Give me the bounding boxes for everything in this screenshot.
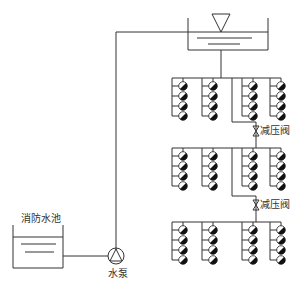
sprinkler-head-icon [249, 102, 258, 111]
sprinkler-head-icon [277, 236, 286, 245]
lower-zone [172, 222, 285, 264]
sprinkler-zones [172, 78, 285, 264]
sprinkler-branch [242, 222, 257, 264]
sprinkler-head-icon [179, 162, 188, 171]
pressure-reducing-valve-lower: 减压阀 [253, 198, 290, 210]
pump-label: 水泵 [108, 268, 128, 279]
sprinkler-head-icon [209, 82, 218, 91]
pump-circle-icon [108, 248, 124, 264]
sprinkler-branch [270, 78, 285, 120]
sprinkler-head-icon [249, 172, 258, 181]
sprinkler-head-icon [209, 182, 218, 191]
sprinkler-branch [242, 78, 257, 120]
sprinkler-head-icon [179, 82, 188, 91]
pressure-reducing-valve-upper: 减压阀 [253, 124, 290, 136]
upper-zone [172, 78, 285, 120]
sprinkler-head-icon [209, 236, 218, 245]
sprinkler-branch [172, 78, 187, 120]
sprinkler-head-icon [277, 82, 286, 91]
prv-lower-label: 减压阀 [260, 198, 290, 210]
sprinkler-head-icon [277, 226, 286, 235]
supply-riser [116, 32, 188, 250]
fire-system-diagram: 减压阀 减压阀 消防水池 水泵 [0, 0, 298, 290]
sprinkler-branch [202, 222, 217, 264]
pool-outline [13, 225, 63, 268]
sprinkler-head-icon [277, 246, 286, 255]
sprinkler-head-icon [179, 112, 188, 121]
sprinkler-head-icon [179, 236, 188, 245]
sprinkler-head-icon [249, 162, 258, 171]
sprinkler-head-icon [277, 162, 286, 171]
sprinkler-head-icon [209, 172, 218, 181]
sprinkler-head-icon [209, 226, 218, 235]
sprinkler-head-icon [209, 246, 218, 255]
sprinkler-branch [172, 148, 187, 190]
sprinkler-head-icon [179, 246, 188, 255]
sprinkler-head-icon [277, 256, 286, 265]
tank-outline [188, 18, 268, 50]
sprinkler-head-icon [249, 256, 258, 265]
pump: 水泵 [108, 248, 128, 279]
sprinkler-branch [242, 148, 257, 190]
middle-zone [172, 148, 285, 190]
sprinkler-head-icon [179, 226, 188, 235]
sprinkler-head-icon [277, 112, 286, 121]
fire-pool-label: 消防水池 [21, 212, 61, 224]
sprinkler-head-icon [179, 172, 188, 181]
water-level-triangle-icon [212, 14, 230, 32]
sprinkler-head-icon [277, 182, 286, 191]
sprinkler-head-icon [179, 102, 188, 111]
sprinkler-head-icon [249, 82, 258, 91]
sprinkler-head-icon [249, 226, 258, 235]
sprinkler-head-icon [249, 112, 258, 121]
sprinkler-head-icon [277, 102, 286, 111]
sprinkler-head-icon [209, 162, 218, 171]
sprinkler-head-icon [249, 152, 258, 161]
sprinkler-head-icon [249, 236, 258, 245]
sprinkler-head-icon [179, 92, 188, 101]
elevated-tank [188, 14, 268, 50]
sprinkler-head-icon [277, 92, 286, 101]
sprinkler-head-icon [209, 92, 218, 101]
pump-triangle-icon [110, 249, 122, 261]
sprinkler-head-icon [179, 152, 188, 161]
prv-upper-label: 减压阀 [260, 124, 290, 136]
sprinkler-head-icon [179, 256, 188, 265]
sprinkler-branch [202, 78, 217, 120]
sprinkler-head-icon [277, 172, 286, 181]
sprinkler-head-icon [249, 182, 258, 191]
sprinkler-head-icon [249, 246, 258, 255]
sprinkler-head-icon [179, 182, 188, 191]
sprinkler-head-icon [277, 152, 286, 161]
sprinkler-head-icon [209, 256, 218, 265]
sprinkler-branch [172, 222, 187, 264]
sprinkler-head-icon [209, 112, 218, 121]
sprinkler-head-icon [209, 152, 218, 161]
sprinkler-branch [202, 148, 217, 190]
fire-pool: 消防水池 [13, 212, 63, 268]
sprinkler-head-icon [209, 102, 218, 111]
sprinkler-head-icon [249, 92, 258, 101]
sprinkler-branch [270, 148, 285, 190]
sprinkler-branch [270, 222, 285, 264]
